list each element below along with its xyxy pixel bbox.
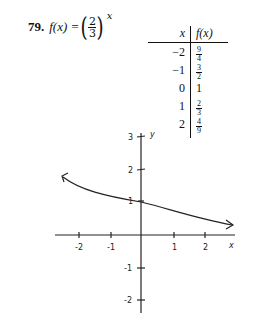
y-axis-label: y (149, 130, 155, 139)
x-tick-label: 2 (203, 243, 208, 252)
y-tick-label: 3 (128, 133, 133, 142)
curve (63, 177, 232, 225)
y-tick-label: -1 (124, 264, 132, 273)
x-tick-label: -2 (75, 243, 83, 252)
x-tick-label: -1 (107, 243, 115, 252)
x-tick-label: 1 (172, 243, 177, 252)
y-tick-label: 2 (128, 166, 133, 175)
y-tick-label: -2 (124, 296, 132, 305)
function-graph: y x -2 -1 1 2 3 2 1 -1 -2 (0, 0, 255, 322)
y-tick-label: 1 (128, 197, 133, 206)
x-axis-label: x (228, 241, 234, 250)
